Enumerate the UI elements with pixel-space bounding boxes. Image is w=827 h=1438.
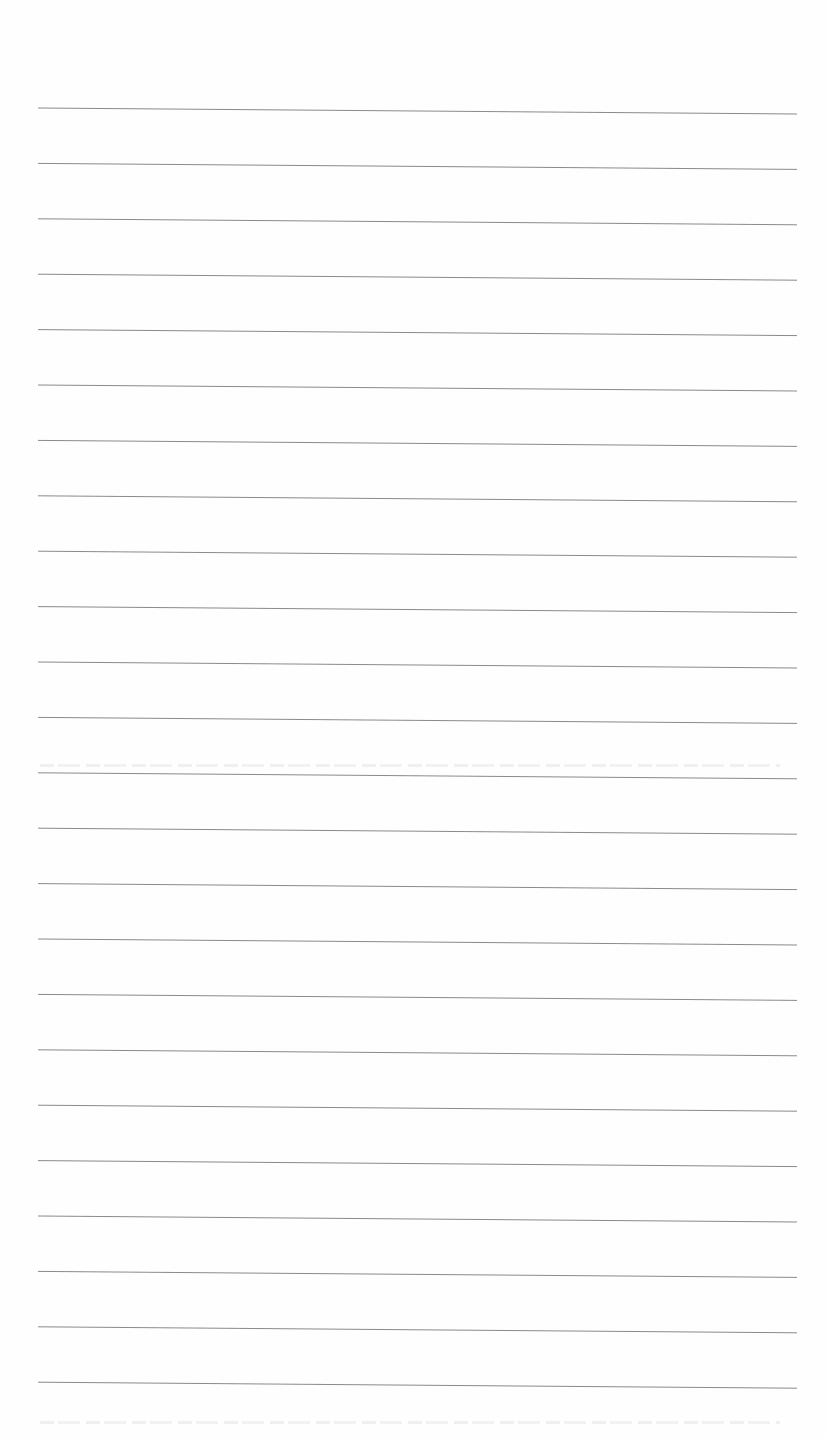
- ruled-line: [38, 607, 797, 613]
- ruled-line: [38, 773, 797, 779]
- ruled-line: [38, 440, 797, 446]
- bleed-through-mark: [40, 764, 780, 767]
- ruled-line: [38, 939, 797, 945]
- ruled-line: [38, 330, 797, 336]
- ruled-line: [38, 1382, 797, 1388]
- ruled-line: [38, 828, 797, 834]
- ruled-line: [38, 1271, 797, 1277]
- ruled-line: [38, 717, 797, 723]
- ruled-line: [38, 884, 797, 890]
- ruled-line: [38, 385, 797, 391]
- ruled-line: [38, 551, 797, 557]
- ruled-line: [38, 1327, 797, 1333]
- bleed-through-mark: [40, 1421, 780, 1424]
- ruled-line: [38, 108, 797, 114]
- ruled-line: [38, 1050, 797, 1056]
- ruled-line: [38, 1216, 797, 1222]
- lined-paper-sheet: [0, 0, 827, 1438]
- ruled-lines: [0, 0, 827, 1438]
- ruled-line: [38, 496, 797, 502]
- ruled-line: [38, 662, 797, 668]
- ruled-line: [38, 163, 797, 169]
- ruled-line: [38, 219, 797, 225]
- ruled-line: [38, 1161, 797, 1167]
- ruled-line: [38, 1105, 797, 1111]
- ruled-line: [38, 274, 797, 280]
- ruled-line: [38, 994, 797, 1000]
